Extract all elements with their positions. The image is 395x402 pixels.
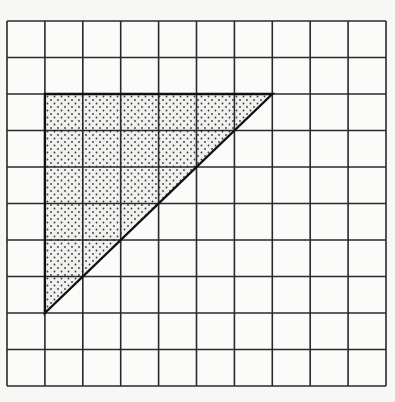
grid-diagram [0,0,395,402]
